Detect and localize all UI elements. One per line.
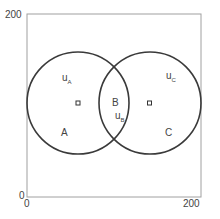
region-label-b: B [112, 98, 119, 108]
center-marker-left [76, 101, 80, 105]
velocity-subscript: A [68, 79, 72, 85]
x-axis-max-label: 200 [183, 199, 200, 209]
x-axis-min-label: 0 [24, 199, 30, 209]
region-label-c: C [165, 128, 172, 138]
velocity-label-ub: uB [115, 111, 125, 121]
center-marker-right [148, 101, 152, 105]
region-label-a: A [61, 128, 68, 138]
velocity-label-uc: uC [166, 71, 176, 81]
diagram-canvas [0, 0, 220, 219]
velocity-subscript: C [172, 77, 176, 83]
velocity-subscript: B [121, 117, 125, 123]
velocity-label-ua: uA [62, 73, 72, 83]
velocity-base: u [166, 70, 172, 81]
y-axis-max-label: 200 [5, 10, 22, 20]
velocity-base: u [62, 72, 68, 83]
velocity-base: u [115, 110, 121, 121]
